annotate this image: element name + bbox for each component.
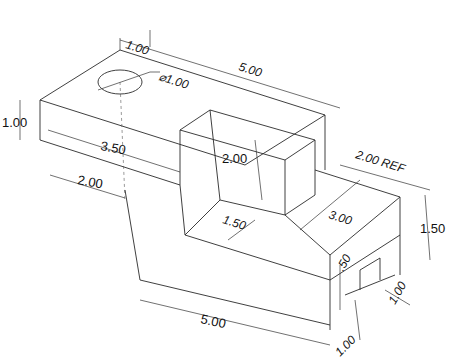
dim-lower-depth: 2.00: [76, 172, 104, 191]
dim-block-height: 2.00: [222, 151, 247, 166]
dim-step-depth: 1.50: [221, 212, 248, 232]
dim-hole-diameter: ⌀1.00: [157, 69, 190, 91]
dim-upper-depth: 3.50: [99, 138, 127, 157]
dim-right-height: 1.50: [420, 221, 445, 236]
dim-top-length: 5.00: [237, 59, 264, 79]
dim-slot-depth: .50: [333, 252, 354, 274]
dim-right-length: 3.00: [327, 207, 354, 227]
dim-hole-offset: 1.00: [124, 37, 151, 57]
dim-bottom-length: 5.00: [199, 311, 227, 331]
dim-left-height: 1.00: [2, 115, 27, 130]
dim-ref-width: 2.00 REF: [353, 147, 407, 176]
dim-bottom-right: 1.00: [332, 332, 359, 359]
isometric-part: 1.00 5.00 ⌀1.00 1.00 3.50 2.00 2.00 1.50…: [0, 0, 454, 362]
drawing-canvas: 1.00 5.00 ⌀1.00 1.00 3.50 2.00 2.00 1.50…: [0, 0, 454, 362]
